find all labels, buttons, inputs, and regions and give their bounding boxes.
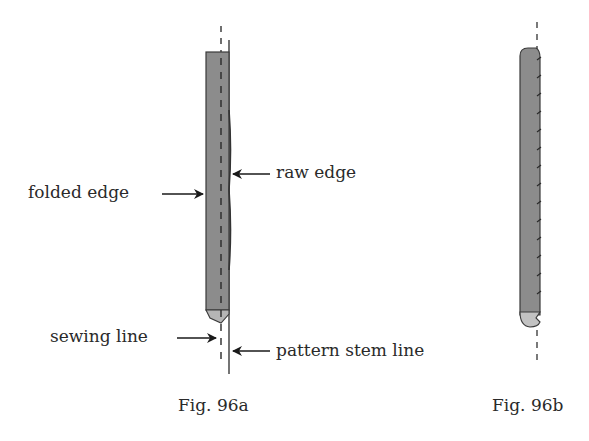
fig-96b-drawing (520, 22, 541, 365)
caption-fig-96a: Fig. 96a (178, 397, 249, 414)
diagram-illustration (0, 0, 589, 441)
rolled-end (520, 312, 540, 327)
fig-96a-drawing (206, 26, 231, 374)
caption-fig-96b: Fig. 96b (492, 397, 563, 414)
label-sewing-line: sewing line (50, 328, 148, 345)
label-folded-edge: folded edge (28, 184, 129, 201)
label-pattern-stem-line: pattern stem line (276, 342, 424, 359)
rolled-fabric-strip (520, 48, 540, 315)
fold-tip (206, 310, 229, 323)
folded-fabric-strip (206, 52, 229, 310)
diagram-canvas: folded edge raw edge sewing line pattern… (0, 0, 589, 441)
label-raw-edge: raw edge (276, 164, 356, 181)
